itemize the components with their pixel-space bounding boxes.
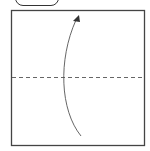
- fold-diagram: [0, 0, 150, 151]
